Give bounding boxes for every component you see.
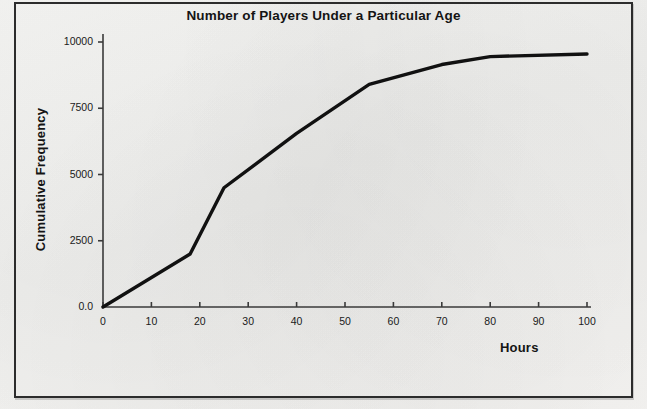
x-tick-label: 90 [519,315,559,327]
y-tick-label: 0.0 [47,300,93,312]
cumulative-frequency-curve [103,54,587,307]
x-tick-label: 100 [567,315,607,327]
x-tick-label: 0 [83,315,123,327]
x-tick-label: 80 [470,315,510,327]
x-tick-label: 40 [277,315,317,327]
y-tick-label: 10000 [47,35,93,47]
y-tick-label: 5000 [47,168,93,180]
axes [103,34,591,307]
data-series-line [103,54,587,307]
plot-area [0,0,647,409]
y-tick-label: 2500 [47,234,93,246]
chart-figure: Number of Players Under a Particular Age… [0,0,647,409]
x-tick-label: 10 [131,315,171,327]
x-tick-label: 50 [325,315,365,327]
x-tick-label: 20 [180,315,220,327]
x-tick-label: 30 [228,315,268,327]
x-tick-label: 70 [422,315,462,327]
y-tick-label: 7500 [47,101,93,113]
x-tick-label: 60 [373,315,413,327]
